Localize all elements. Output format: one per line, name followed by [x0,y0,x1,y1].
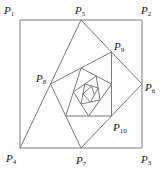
label-p9: P9 [113,40,125,54]
label-p6: P6 [144,81,156,95]
label-p5: P5 [74,4,86,18]
label-p7: P7 [75,154,87,168]
spiral-segment [91,86,94,95]
spiral-segment [83,94,91,102]
label-p8: P8 [35,72,47,86]
spiral-squares-diagram: P1P2P3P4P5P6P7P8P9P10 [0,0,162,175]
label-p2: P2 [140,4,152,18]
label-p1: P1 [3,4,15,18]
point-labels: P1P2P3P4P5P6P7P8P9P10 [3,4,156,168]
label-p3: P3 [140,153,152,167]
label-p10: P10 [112,121,127,135]
label-p4: P4 [5,152,17,166]
